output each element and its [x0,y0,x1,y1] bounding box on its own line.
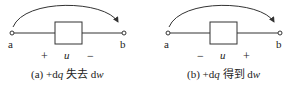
circuit-element-box [55,22,82,44]
node-label-a: a [8,38,13,50]
circuit-b: a b − u + (b) +dq 得到 dw [164,5,282,81]
caption-b: (b) +dq 得到 dw [187,68,261,81]
polarity-left: + [41,49,48,63]
polarity-left: − [197,49,204,63]
circuit-element-box [210,22,237,44]
terminal-b [122,31,126,35]
circuit-a: a b + u − (a) +dq 失去 dw [8,5,126,81]
terminal-a [166,31,170,35]
diagram-canvas: a b + u − (a) +dq 失去 dw a b − u + (b) +d… [0,0,292,88]
terminal-a [10,31,14,35]
polarity-right: − [87,49,94,63]
polarity-right: + [243,49,250,63]
voltage-label: u [220,49,226,61]
terminal-b [278,31,282,35]
node-label-a: a [164,38,169,50]
caption-a: (a) +dq 失去 dw [31,68,104,81]
node-label-b: b [120,38,126,50]
node-label-b: b [276,38,282,50]
voltage-label: u [64,49,70,61]
